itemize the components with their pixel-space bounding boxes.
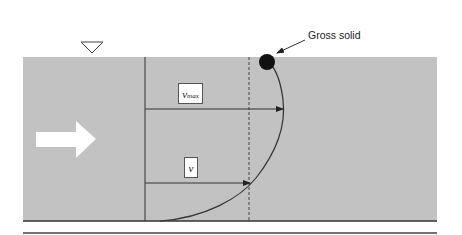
gross-solid-pointer [277, 40, 305, 53]
open-channel-flow-diagram [0, 0, 462, 235]
gross-solid-particle-icon [259, 54, 275, 70]
vmax-label: vmax [178, 83, 203, 104]
vmax-label-sub: max [187, 92, 199, 100]
gross-solid-label: Gross solid [308, 29, 361, 41]
v-label: v [184, 157, 198, 178]
v-label-text: v [189, 162, 194, 174]
water-surface-icon [81, 42, 103, 53]
